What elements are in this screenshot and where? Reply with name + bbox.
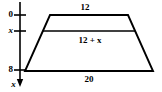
axis-tick-label-0: 0: [0, 10, 13, 19]
axis-arrow-label: x: [8, 80, 19, 89]
trapezoid-top-edge-label: 12: [74, 3, 96, 12]
trapezoid-figure: 0 x 8 x 12 12 + x 20: [0, 0, 162, 92]
axis-tick-label-x: x: [0, 26, 13, 35]
trapezoid-bottom-edge-label: 20: [78, 75, 100, 84]
trapezoid-midline-label: 12 + x: [70, 36, 110, 45]
axis-tick-label-8: 8: [0, 65, 13, 74]
